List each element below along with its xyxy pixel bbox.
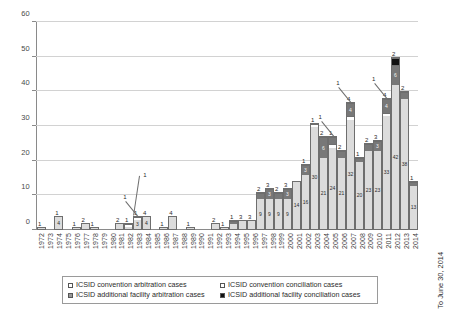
legend-item-label: ICSID convention conciliation cases bbox=[228, 280, 342, 290]
bar-slot-1992[interactable]: 2 bbox=[211, 22, 220, 230]
stacked-bar-2014[interactable]: 131 bbox=[409, 181, 418, 230]
bar-slot-1986[interactable]: 1 bbox=[159, 22, 168, 230]
stacked-bar-1977[interactable]: 2 bbox=[81, 223, 90, 230]
bar-slot-2014[interactable]: 131 bbox=[409, 22, 418, 230]
stacked-bar-1976[interactable]: 1 bbox=[72, 227, 81, 230]
stacked-bar-1995[interactable]: 3 bbox=[238, 220, 247, 230]
bar-slot-2011[interactable]: 3344 bbox=[382, 22, 391, 230]
bar-segment-conv-arb-1981 bbox=[116, 224, 123, 229]
bar-series-container: 1411212131441412113392933929331416313012… bbox=[37, 22, 418, 230]
stacked-bar-2006[interactable]: 212 bbox=[337, 150, 346, 230]
bar-slot-1987[interactable]: 4 bbox=[168, 22, 177, 230]
bar-slot-1979[interactable] bbox=[99, 22, 107, 230]
stacked-bar-2003[interactable]: 301 bbox=[310, 123, 319, 230]
stacked-bar-2008[interactable]: 201 bbox=[355, 157, 364, 230]
bar-slot-2012[interactable]: 4262 bbox=[391, 22, 400, 230]
stacked-bar-2004[interactable]: 2162 bbox=[319, 136, 328, 230]
bar-slot-1984[interactable]: 44 bbox=[142, 22, 151, 230]
stacked-bar-2007[interactable]: 3244 bbox=[346, 102, 355, 230]
stacked-bar-1974[interactable]: 41 bbox=[54, 216, 63, 230]
stacked-bar-1983[interactable]: 31 bbox=[133, 216, 142, 230]
bar-slot-1988[interactable] bbox=[177, 22, 185, 230]
bar-top-label-2012: 2 bbox=[392, 51, 395, 57]
x-axis-tick-2005: 2005 bbox=[330, 232, 339, 262]
x-axis-tick-label: 2013 bbox=[402, 233, 409, 249]
bar-slot-2003[interactable]: 301 bbox=[310, 22, 319, 230]
legend-swatch-icon bbox=[220, 283, 225, 288]
bar-slot-2002[interactable]: 1631 bbox=[301, 22, 310, 230]
x-axis-tick-2008: 2008 bbox=[357, 232, 366, 262]
stacked-bar-1992[interactable]: 2 bbox=[211, 223, 220, 230]
stacked-bar-1994[interactable]: 1 bbox=[229, 220, 238, 230]
bar-slot-1993[interactable]: 1 bbox=[220, 22, 229, 230]
x-axis-tick-label: 1978 bbox=[91, 233, 98, 249]
stacked-bar-1978[interactable]: 1 bbox=[90, 227, 99, 230]
stacked-bar-1981[interactable]: 2 bbox=[115, 223, 124, 230]
bar-slot-1977[interactable]: 2 bbox=[81, 22, 90, 230]
stacked-bar-1984[interactable]: 44 bbox=[142, 216, 151, 230]
stacked-bar-2010[interactable]: 2333 bbox=[373, 140, 382, 230]
legend-item-3[interactable]: ICSID additional facility conciliation c… bbox=[220, 290, 372, 300]
bar-slot-2005[interactable]: 241 bbox=[328, 22, 337, 230]
segment-value-label: 3 bbox=[136, 222, 139, 227]
chart-canvas: 0102030405060 14112121314414121133929339… bbox=[0, 0, 472, 314]
bar-segment-conv-arb-1983: 3 bbox=[134, 220, 141, 229]
bar-slot-1973[interactable] bbox=[46, 22, 54, 230]
stacked-bar-1996[interactable]: 3 bbox=[247, 220, 256, 230]
bar-slot-2009[interactable]: 232 bbox=[364, 22, 373, 230]
bar-top-label-1976: 1 bbox=[73, 221, 76, 227]
bar-slot-1976[interactable]: 1 bbox=[72, 22, 81, 230]
y-axis-label: 0 bbox=[26, 217, 30, 226]
x-axis-tick-1994: 1994 bbox=[233, 232, 242, 262]
bar-slot-2010[interactable]: 2333 bbox=[373, 22, 382, 230]
stacked-bar-2011[interactable]: 3344 bbox=[382, 98, 391, 230]
bar-slot-1990[interactable] bbox=[195, 22, 203, 230]
legend-item-0[interactable]: ICSID convention arbitration cases bbox=[68, 280, 220, 290]
stacked-bar-2012[interactable]: 4262 bbox=[391, 57, 400, 230]
x-axis-tick-label: 1977 bbox=[82, 233, 89, 249]
legend-item-2[interactable]: ICSID additional facility arbitration ca… bbox=[68, 290, 220, 300]
stacked-bar-2001[interactable]: 14 bbox=[292, 181, 301, 230]
stacked-bar-1972[interactable]: 1 bbox=[37, 227, 46, 230]
stacked-bar-2013[interactable]: 382 bbox=[400, 91, 409, 230]
stacked-bar-2000[interactable]: 933 bbox=[283, 188, 292, 230]
stacked-bar-1987[interactable]: 4 bbox=[168, 216, 177, 230]
bar-slot-1972[interactable]: 1 bbox=[37, 22, 46, 230]
stacked-bar-2005[interactable]: 241 bbox=[328, 136, 337, 230]
stacked-bar-2002[interactable]: 1631 bbox=[301, 164, 310, 230]
stacked-bar-1986[interactable]: 1 bbox=[159, 227, 168, 230]
bar-slot-1985[interactable] bbox=[151, 22, 159, 230]
stacked-bar-1993[interactable]: 1 bbox=[220, 227, 229, 230]
bar-slot-1997[interactable]: 92 bbox=[256, 22, 265, 230]
bar-slot-1994[interactable]: 1 bbox=[229, 22, 238, 230]
bar-slot-2013[interactable]: 382 bbox=[400, 22, 409, 230]
bar-slot-1989[interactable]: 1 bbox=[186, 22, 195, 230]
stacked-bar-1989[interactable]: 1 bbox=[186, 227, 195, 230]
bar-slot-1983[interactable]: 31 bbox=[133, 22, 142, 230]
bar-slot-2007[interactable]: 3244 bbox=[346, 22, 355, 230]
x-axis-tick-1980: 1980 bbox=[108, 232, 117, 262]
bar-slot-1975[interactable] bbox=[63, 22, 71, 230]
legend-item-1[interactable]: ICSID convention conciliation cases bbox=[220, 280, 372, 290]
bar-slot-1978[interactable]: 1 bbox=[90, 22, 99, 230]
stacked-bar-1999[interactable]: 92 bbox=[274, 192, 283, 230]
bar-segment-conv-arb-1994 bbox=[230, 224, 237, 229]
bar-slot-1995[interactable]: 3 bbox=[238, 22, 247, 230]
bar-slot-2000[interactable]: 933 bbox=[283, 22, 292, 230]
bar-slot-1974[interactable]: 41 bbox=[54, 22, 63, 230]
bar-slot-1980[interactable] bbox=[107, 22, 115, 230]
stacked-bar-1998[interactable]: 933 bbox=[265, 188, 274, 230]
stacked-bar-1982[interactable]: 1 bbox=[124, 223, 133, 230]
x-axis-tick-2011: 2011 bbox=[384, 232, 393, 262]
bar-slot-2001[interactable]: 14 bbox=[292, 22, 301, 230]
bar-slot-1998[interactable]: 933 bbox=[265, 22, 274, 230]
stacked-bar-2009[interactable]: 232 bbox=[364, 143, 373, 230]
bar-slot-2006[interactable]: 212 bbox=[337, 22, 346, 230]
bar-slot-1999[interactable]: 92 bbox=[274, 22, 283, 230]
bar-slot-1991[interactable] bbox=[203, 22, 211, 230]
stacked-bar-1997[interactable]: 92 bbox=[256, 192, 265, 230]
x-axis-tick-label: 1996 bbox=[251, 233, 258, 249]
bar-segment-af-arb-1994 bbox=[230, 221, 237, 224]
bar-slot-1996[interactable]: 3 bbox=[247, 22, 256, 230]
bar-slot-2008[interactable]: 201 bbox=[355, 22, 364, 230]
